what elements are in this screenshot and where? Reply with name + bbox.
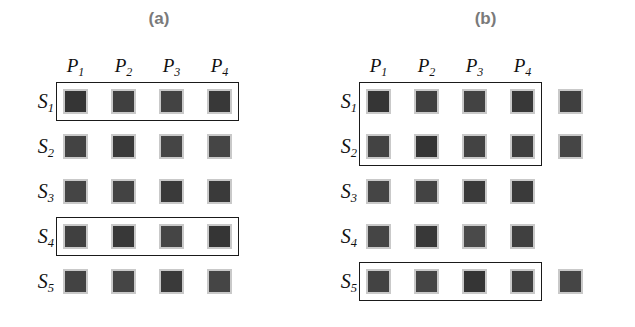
row-label-letter: S <box>341 270 351 292</box>
cell-a-s2-c2[interactable] <box>111 134 136 159</box>
cell-a-s1-c2[interactable] <box>111 89 136 114</box>
column-header-a-p3: P3 <box>148 55 196 79</box>
cell-b-s4-c3[interactable] <box>462 224 487 249</box>
cell-a-s5-c2[interactable] <box>111 269 136 294</box>
column-header-b-p1: P1 <box>355 55 403 79</box>
cell-b-s4-c2[interactable] <box>414 224 439 249</box>
cell-b-s5-c4[interactable] <box>510 269 535 294</box>
row-label-b-s1: S1 <box>323 91 357 114</box>
row-label-b-s3: S3 <box>323 181 357 204</box>
row-label-index: 2 <box>48 146 54 160</box>
column-header-index: 2 <box>429 65 435 79</box>
column-header-index: 3 <box>477 65 483 79</box>
cell-a-s5-c1[interactable] <box>63 269 88 294</box>
column-header-letter: P <box>67 55 79 76</box>
cell-b-s1-c2[interactable] <box>414 89 439 114</box>
row-label-index: 3 <box>48 191 54 205</box>
cell-a-s1-c1[interactable] <box>63 89 88 114</box>
column-header-letter: P <box>418 55 430 76</box>
cell-b-s5-c2[interactable] <box>414 269 439 294</box>
cell-a-s5-c3[interactable] <box>159 269 184 294</box>
row-label-letter: S <box>38 135 48 157</box>
cell-b-s2-c5[interactable] <box>558 134 583 159</box>
row-label-index: 5 <box>351 281 357 295</box>
cell-b-s1-c3[interactable] <box>462 89 487 114</box>
cell-a-s1-c4[interactable] <box>207 89 232 114</box>
cell-a-s3-c3[interactable] <box>159 179 184 204</box>
column-header-b-p3: P3 <box>451 55 499 79</box>
cell-b-s5-c5[interactable] <box>558 269 583 294</box>
cell-b-s2-c1[interactable] <box>366 134 391 159</box>
row-label-index: 4 <box>48 236 54 250</box>
cell-b-s4-c4[interactable] <box>510 224 535 249</box>
column-header-index: 4 <box>525 65 531 79</box>
cell-b-s1-c5[interactable] <box>558 89 583 114</box>
figure-root: (a)P1P2P3P4S1S2S3S4S5(b)P1P2P3P4S1S2S3S4… <box>0 0 635 327</box>
row-label-index: 1 <box>48 101 54 115</box>
column-header-index: 4 <box>222 65 228 79</box>
column-header-letter: P <box>211 55 223 76</box>
cell-b-s3-c3[interactable] <box>462 179 487 204</box>
panel-b: (b)P1P2P3P4S1S2S3S4S5 <box>318 0 635 327</box>
cell-a-s2-c4[interactable] <box>207 134 232 159</box>
cell-a-s3-c4[interactable] <box>207 179 232 204</box>
row-label-letter: S <box>341 90 351 112</box>
grid-area-b: P1P2P3P4S1S2S3S4S5 <box>318 0 635 327</box>
row-label-a-s4: S4 <box>20 226 54 249</box>
cell-b-s1-c4[interactable] <box>510 89 535 114</box>
cell-a-s5-c4[interactable] <box>207 269 232 294</box>
cell-b-s2-c2[interactable] <box>414 134 439 159</box>
cell-a-s2-c1[interactable] <box>63 134 88 159</box>
row-label-index: 5 <box>48 281 54 295</box>
cell-a-s1-c3[interactable] <box>159 89 184 114</box>
cell-b-s3-c2[interactable] <box>414 179 439 204</box>
cell-a-s4-c2[interactable] <box>111 224 136 249</box>
column-header-letter: P <box>370 55 382 76</box>
cell-b-s3-c1[interactable] <box>366 179 391 204</box>
row-label-letter: S <box>341 135 351 157</box>
cell-a-s4-c3[interactable] <box>159 224 184 249</box>
row-label-index: 1 <box>351 101 357 115</box>
column-header-a-p4: P4 <box>196 55 244 79</box>
cell-a-s3-c1[interactable] <box>63 179 88 204</box>
row-label-b-s5: S5 <box>323 271 357 294</box>
column-header-b-p4: P4 <box>499 55 547 79</box>
row-label-letter: S <box>38 270 48 292</box>
row-label-letter: S <box>341 180 351 202</box>
row-label-a-s1: S1 <box>20 91 54 114</box>
row-label-letter: S <box>38 90 48 112</box>
column-header-letter: P <box>466 55 478 76</box>
row-label-a-s3: S3 <box>20 181 54 204</box>
column-header-index: 3 <box>174 65 180 79</box>
row-label-a-s5: S5 <box>20 271 54 294</box>
row-label-a-s2: S2 <box>20 136 54 159</box>
row-label-letter: S <box>38 225 48 247</box>
row-label-letter: S <box>341 225 351 247</box>
cell-b-s2-c3[interactable] <box>462 134 487 159</box>
row-label-index: 4 <box>351 236 357 250</box>
column-header-index: 1 <box>78 65 84 79</box>
column-header-letter: P <box>115 55 127 76</box>
cell-a-s2-c3[interactable] <box>159 134 184 159</box>
row-label-letter: S <box>38 180 48 202</box>
column-header-letter: P <box>514 55 526 76</box>
column-header-b-p2: P2 <box>403 55 451 79</box>
cell-b-s3-c4[interactable] <box>510 179 535 204</box>
column-header-index: 1 <box>381 65 387 79</box>
column-header-index: 2 <box>126 65 132 79</box>
cell-b-s1-c1[interactable] <box>366 89 391 114</box>
column-header-a-p2: P2 <box>100 55 148 79</box>
cell-b-s2-c4[interactable] <box>510 134 535 159</box>
cell-a-s3-c2[interactable] <box>111 179 136 204</box>
cell-b-s4-c1[interactable] <box>366 224 391 249</box>
cell-b-s5-c1[interactable] <box>366 269 391 294</box>
column-header-a-p1: P1 <box>52 55 100 79</box>
grid-area-a: P1P2P3P4S1S2S3S4S5 <box>0 0 318 327</box>
cell-a-s4-c4[interactable] <box>207 224 232 249</box>
row-label-index: 3 <box>351 191 357 205</box>
row-label-b-s4: S4 <box>323 226 357 249</box>
cell-a-s4-c1[interactable] <box>63 224 88 249</box>
row-label-b-s2: S2 <box>323 136 357 159</box>
cell-b-s5-c3[interactable] <box>462 269 487 294</box>
panel-a: (a)P1P2P3P4S1S2S3S4S5 <box>0 0 318 327</box>
